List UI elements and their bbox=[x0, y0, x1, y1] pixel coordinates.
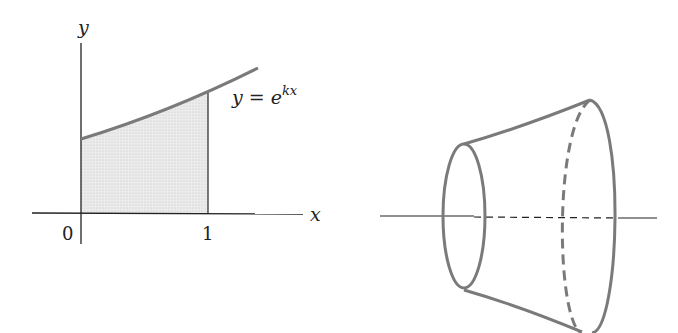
bottom-profile bbox=[464, 290, 582, 332]
right-end-front bbox=[590, 100, 615, 333]
curve-label: y = ekx bbox=[231, 83, 298, 108]
top-profile bbox=[464, 100, 590, 144]
x-axis bbox=[32, 213, 303, 214]
origin-label: 0 bbox=[62, 223, 73, 244]
x-tick-1-label: 1 bbox=[202, 223, 213, 244]
solid-of-revolution bbox=[380, 100, 657, 333]
y-axis-label: y bbox=[77, 16, 89, 38]
shaded-area bbox=[81, 93, 208, 213]
rotation-axis-hidden bbox=[474, 217, 618, 218]
x-axis-label: x bbox=[310, 203, 321, 225]
left-graph: y x 0 1 y = ekx bbox=[32, 16, 321, 244]
right-end-back-dashed bbox=[562, 100, 590, 333]
diagram-canvas: y x 0 1 y = ekx bbox=[0, 0, 678, 333]
